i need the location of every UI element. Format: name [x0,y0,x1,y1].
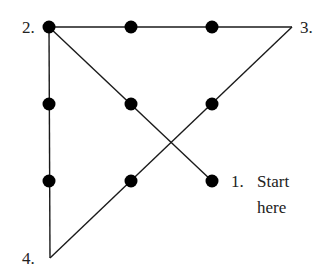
label-step-4: 4. [22,249,35,268]
dot [43,21,56,34]
segment-4-to-2 [49,27,50,258]
dot [206,175,219,188]
dot [125,98,138,111]
label-here: here [257,198,286,217]
label-step-3: 3. [300,18,313,37]
nine-dots-diagram: 2. 3. 4. 1. Start here [0,0,329,272]
label-step-1-number: 1. [231,172,244,191]
label-start: Start [257,172,289,191]
dot [125,175,138,188]
dot [43,175,56,188]
dot [43,98,56,111]
dot [206,21,219,34]
label-step-2: 2. [22,18,35,37]
dot [125,21,138,34]
dot [206,98,219,111]
